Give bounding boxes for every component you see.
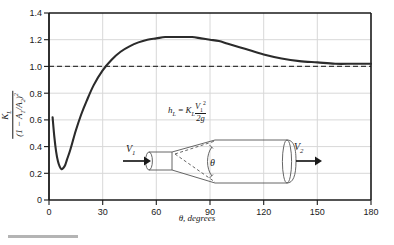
y-tick-label: 1.0 <box>29 62 42 72</box>
y-axis-title-numerator: KL <box>1 91 12 139</box>
y-tick-label: 1.2 <box>29 35 42 45</box>
velocity-head-fraction: V12 2g <box>195 100 206 123</box>
y-tick-label: 1.4 <box>29 8 42 18</box>
x-axis-title-text: θ, degrees <box>179 213 216 223</box>
y-axis-title: KL (1 − A1/A2)2 <box>2 60 26 170</box>
theta-angle-label: θ <box>210 157 215 168</box>
y-tick-label: 0.2 <box>29 169 42 179</box>
diffuser-loss-coefficient-figure: 0 0.2 0.4 0.6 0.8 1.0 1.2 1.4 0 30 60 90… <box>0 0 394 245</box>
head-loss-equation: hL = KL V12 2g <box>168 100 206 123</box>
y-axis-tick-labels: 0 0.2 0.4 0.6 0.8 1.0 1.2 1.4 <box>29 8 42 205</box>
caption-rule <box>8 235 78 238</box>
y-tick-label: 0.6 <box>29 115 42 125</box>
y-axis-title-fraction: KL (1 − A1/A2)2 <box>1 91 26 139</box>
inlet-velocity-label: V1 <box>126 143 136 156</box>
outlet-velocity-label: V2 <box>294 141 304 154</box>
y-tick-label: 0.8 <box>29 89 42 99</box>
y-tick-label: 0.4 <box>29 142 42 152</box>
y-tick-label: 0 <box>37 195 42 205</box>
x-axis-title: θ, degrees <box>0 213 394 223</box>
y-axis-title-denominator: (1 − A1/A2)2 <box>13 91 27 139</box>
